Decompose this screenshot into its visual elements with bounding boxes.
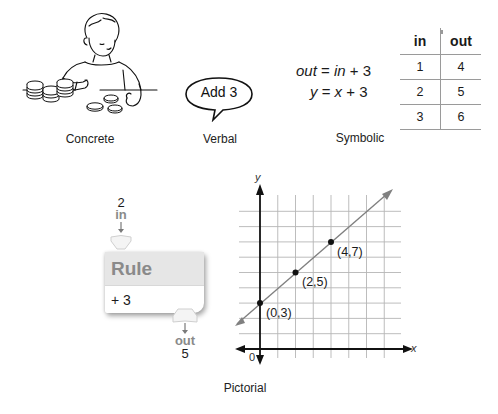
table-row: 1 4 xyxy=(400,55,481,80)
input-funnel xyxy=(109,235,133,253)
eq2-rhs-rest: + 3 xyxy=(346,83,367,100)
point-label: (2,5) xyxy=(302,275,328,289)
loose-coins xyxy=(87,95,122,113)
point-0-3 xyxy=(257,300,263,306)
table-divider-top xyxy=(441,30,443,34)
table-cell-out: 5 xyxy=(441,80,482,105)
point-label: (0,3) xyxy=(266,306,292,320)
equation-out-in: out = in + 3 xyxy=(296,62,371,79)
eq1-rhs-rest: + 3 xyxy=(350,62,371,79)
x-axis-label: x xyxy=(411,342,417,354)
table-cell-in: 1 xyxy=(400,55,441,80)
point-2-5 xyxy=(293,270,299,276)
symbolic-caption: Symbolic xyxy=(310,131,410,145)
table-cell-out: 4 xyxy=(441,55,482,80)
eq2-lhs: y xyxy=(310,83,318,100)
equation-y-x: y = x + 3 xyxy=(310,83,368,100)
origin-label: 0 xyxy=(249,351,255,363)
y-axis-up-arrow-icon xyxy=(256,184,264,195)
coin-stack-1 xyxy=(27,81,43,99)
table-cell-in: 3 xyxy=(400,105,441,130)
verbal-caption: Verbal xyxy=(170,132,270,146)
in-out-table: in out 1 4 2 5 3 6 xyxy=(400,28,481,130)
eq2-rhs-var: x xyxy=(335,83,343,100)
input-arrow-icon xyxy=(117,222,125,234)
speech-bubble-text: Add 3 xyxy=(183,84,255,100)
machine-output-value: 5 xyxy=(170,346,200,361)
eq1-rhs-var: in xyxy=(334,62,346,79)
y-axis-label: y xyxy=(255,171,261,183)
verbal-panel: Add 3 Verbal xyxy=(180,60,290,150)
eq1-lhs: out xyxy=(296,62,317,79)
coin-stack-3 xyxy=(57,79,73,97)
y-axis-down-arrow-icon xyxy=(256,355,264,365)
table-header-out: out xyxy=(441,28,482,55)
table-row: 2 5 xyxy=(400,80,481,105)
line-upper-arrow-icon xyxy=(382,189,393,200)
output-funnel xyxy=(172,308,198,324)
symbolic-panel: out = in + 3 y = x + 3 in out 1 4 2 5 3 xyxy=(290,0,498,150)
rule-box: Rule + 3 xyxy=(105,252,204,313)
table-row: 3 6 xyxy=(400,105,481,130)
coordinate-graph: y x 0 (0,3) (2,5) (4,7) xyxy=(225,170,425,365)
pictorial-caption: Pictorial xyxy=(195,381,295,395)
table-header-in: in xyxy=(400,28,441,55)
concrete-caption: Concrete xyxy=(40,132,140,146)
point-label: (4,7) xyxy=(337,245,363,259)
table-cell-in: 2 xyxy=(400,80,441,105)
concrete-panel: Concrete xyxy=(0,0,190,150)
rule-title: Rule xyxy=(105,252,204,286)
graph-canvas xyxy=(225,170,425,365)
table-cell-out: 6 xyxy=(441,105,482,130)
boy-counting-coins-illustration xyxy=(15,8,165,120)
eq2-op: = xyxy=(322,83,331,100)
eq1-op: = xyxy=(321,62,330,79)
function-machine: 2 in Rule + 3 out 5 xyxy=(100,195,220,370)
machine-input-label: in xyxy=(106,207,136,222)
point-4-7 xyxy=(328,239,334,245)
x-axis-left-arrow-icon xyxy=(235,345,245,353)
